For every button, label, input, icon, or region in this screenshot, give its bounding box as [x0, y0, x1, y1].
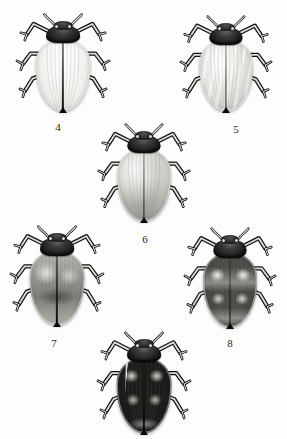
elytral-apex: [59, 107, 67, 113]
beetle-body: [182, 226, 278, 332]
specimen-6: [95, 330, 193, 438]
elytral-apex: [53, 321, 61, 327]
elytral-apex: [226, 323, 234, 329]
elytra: [117, 149, 171, 222]
figure-number-7: 7: [44, 338, 64, 349]
beetle-body: [95, 330, 193, 438]
elytral-apex: [140, 429, 148, 435]
compound-eye: [136, 135, 139, 138]
figure-number-6: 6: [135, 234, 155, 245]
compound-eye: [231, 27, 234, 30]
beetle-body: [96, 122, 192, 226]
beetle-body: [8, 224, 106, 330]
elytra: [199, 40, 253, 111]
figure-number-8: 8: [220, 338, 240, 349]
specimen-2: [178, 14, 274, 116]
figure-number-5: 5: [226, 124, 246, 135]
elytra: [36, 39, 91, 112]
specimen-5: [182, 226, 278, 332]
specimen-4: [8, 224, 106, 330]
specimen-1: [14, 12, 112, 116]
compound-eye: [149, 135, 152, 138]
specimen-3: [96, 122, 192, 226]
elytral-apex: [222, 107, 230, 113]
elytra: [30, 251, 85, 325]
elytral-apex: [140, 217, 148, 223]
compound-eye: [218, 27, 221, 30]
elytra: [117, 358, 172, 434]
beetle-body: [14, 12, 112, 116]
beetle-body: [178, 14, 274, 116]
elytra: [203, 253, 257, 327]
compound-eye: [149, 344, 152, 347]
figure-number-4: 4: [48, 122, 68, 133]
compound-eye: [55, 25, 58, 28]
compound-eye: [136, 344, 139, 347]
beetle-plate: 45678: [0, 0, 287, 439]
